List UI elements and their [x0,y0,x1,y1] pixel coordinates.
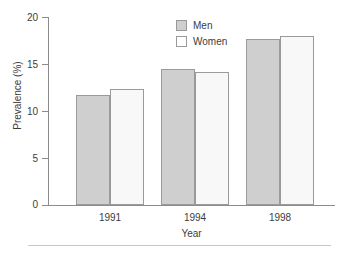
x-tick-label-1991: 1991 [75,212,145,223]
bar-women-1998 [280,36,314,205]
bar-women-1991 [110,89,144,205]
legend-label-women: Women [193,36,227,47]
legend-swatch-men-icon [176,20,187,31]
legend-item-women: Women [176,34,256,48]
bar-men-1994 [161,69,195,205]
chart-legend: Men Women [176,18,256,50]
legend-label-men: Men [193,20,212,31]
x-axis-title: Year [48,228,335,239]
bar-chart-figure: 20 15 10 5 0 Prevalence (%) 1991 1994 19… [0,0,357,254]
bar-men-1991 [76,95,110,205]
legend-swatch-women-icon [176,36,187,47]
y-tick-label-20: 20 [0,13,38,23]
legend-item-men: Men [176,18,256,32]
y-tick-label-0: 0 [0,200,38,210]
bar-men-1998 [246,39,280,205]
x-tick-label-1994: 1994 [160,212,230,223]
x-tick-label-1998: 1998 [245,212,315,223]
bar-women-1994 [195,72,229,205]
y-axis-title: Prevalence (%) [12,26,23,166]
x-axis-line [48,205,335,206]
footer-divider [28,245,331,246]
